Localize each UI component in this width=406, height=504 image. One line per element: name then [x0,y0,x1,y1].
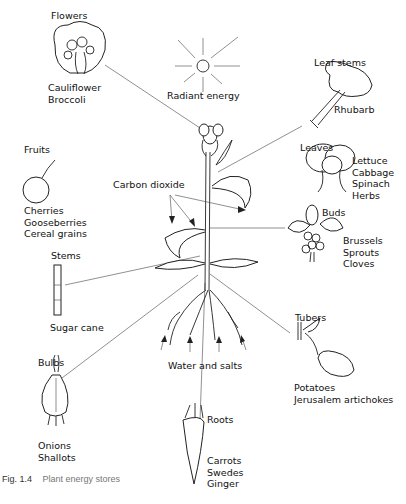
fruits-title: Fruits [24,144,50,156]
sun-icon [175,37,240,92]
bulbs-examples: Onions Shallots [38,440,76,463]
leaf-stems-examples: Rhubarb [334,104,374,116]
figure-caption: Fig. 1.4 Plant energy stores [2,474,120,484]
leaves-title: Leaves [300,142,333,154]
cauliflower-icon [54,22,106,75]
rhubarb-icon [310,62,372,129]
fruits-examples: Cherries Gooseberries Cereal grains [24,205,87,240]
roots-examples: Carrots Swedes Ginger [207,455,243,490]
stems-examples: Sugar cane [50,322,104,334]
figure-caption-text: Plant energy stores [43,474,121,484]
water-and-salts-label: Water and salts [168,360,242,372]
flowers-title: Flowers [51,10,87,22]
bulbs-title: Bulbs [38,357,64,369]
buds-examples: Brussels Sprouts Cloves [343,235,383,270]
carbon-dioxide-label: Carbon dioxide [113,179,185,191]
tubers-title: Tubers [295,312,326,324]
buds-title: Buds [322,207,346,219]
tubers-examples: Potatoes Jerusalem artichokes [294,382,393,405]
radiant-energy-label: Radiant energy [167,90,240,102]
water-arrows [161,335,246,352]
potato-icon [298,318,354,376]
carrot-icon [183,403,204,484]
sugar-cane-icon [54,265,61,315]
plant-energy-stores-diagram: Flowers Cauliflower Broccoli Radiant ene… [0,0,406,504]
roots-title: Roots [207,414,233,426]
leaves-examples: Lettuce Cabbage Spinach Herbs [352,155,394,201]
leaf-stems-title: Leaf stems [314,57,366,69]
flowers-examples: Cauliflower Broccoli [48,82,101,105]
cherry-icon [23,160,55,203]
figure-number: Fig. 1.4 [2,474,32,484]
stems-title: Stems [51,250,81,262]
plant-illustration [155,124,258,352]
